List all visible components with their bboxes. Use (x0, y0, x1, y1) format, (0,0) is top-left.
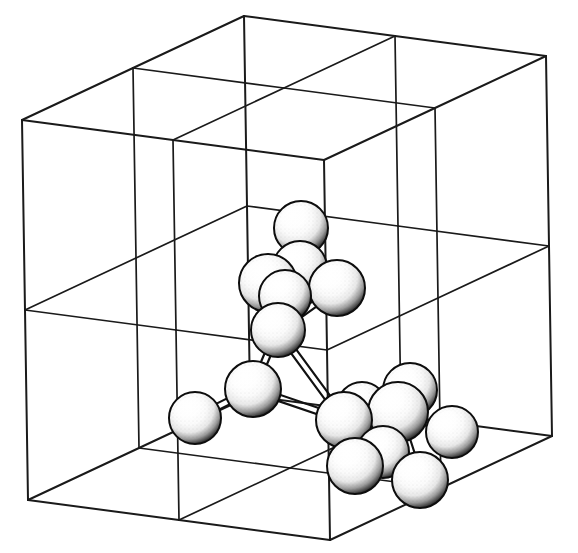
atom-far-right-sphere (426, 406, 478, 459)
atom-upper-right-sphere (309, 260, 365, 317)
atom-bottom-left-sphere (327, 438, 383, 495)
lattice-figure (0, 0, 578, 553)
lattice-diagram-canvas (0, 0, 578, 553)
atom-mid-center-sphere (251, 303, 305, 358)
atom-bottom-right-sphere (392, 452, 448, 509)
atom-mid-left-sphere (225, 361, 281, 418)
atom-lower-left-sphere (169, 392, 221, 445)
